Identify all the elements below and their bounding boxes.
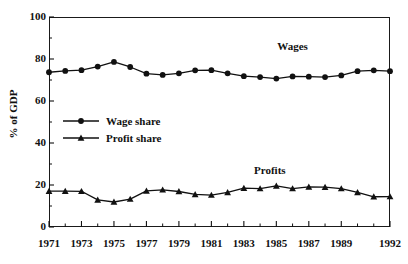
x-tick-label: 1992 [379,237,401,249]
x-tick-label: 1989 [330,237,352,249]
legend-marker-circle-icon [62,114,100,128]
legend-item: Wage share [62,112,192,129]
x-tick-label: 1979 [168,237,190,249]
x-tick-label: 1987 [298,237,320,249]
x-tick-label: 1973 [70,237,92,249]
legend-marker-triangle-icon [62,131,100,145]
legend-label: Wage share [106,115,161,127]
y-axis-title: % of GDP [7,79,19,149]
x-tick-label: 1983 [233,237,255,249]
y-tick-label: 100 [2,11,46,22]
legend-item: Profit share [62,129,192,146]
y-tick-label: 20 [2,179,46,190]
x-tick-label: 1985 [265,237,287,249]
y-tick-label: 0 [2,221,46,232]
chart-legend: Wage shareProfit share [62,112,192,146]
legend-label: Profit share [106,132,162,144]
annotation-profits: Profits [254,164,286,176]
x-tick-label: 1975 [103,237,125,249]
annotation-wages: Wages [277,40,308,52]
x-tick-label: 1971 [38,237,60,249]
x-tick-label: 1977 [135,237,157,249]
x-tick-label: 1981 [200,237,222,249]
chart-page: 020406080100 % of GDP WagesProfits Wage … [0,0,408,264]
y-tick-label: 80 [2,53,46,64]
